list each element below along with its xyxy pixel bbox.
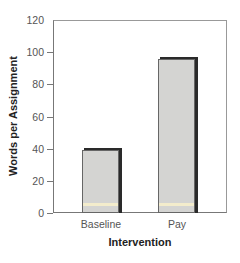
bar-highlight [159, 203, 194, 206]
bar-baseline [82, 150, 119, 213]
bar-pay [158, 59, 195, 213]
y-tick [47, 149, 53, 150]
y-tick [47, 84, 53, 85]
y-axis-title: Words per Assignment [7, 56, 19, 176]
y-tick [47, 181, 53, 182]
bar-highlight [83, 203, 118, 206]
y-tick [47, 117, 53, 118]
y-tick-label: 20 [14, 176, 44, 186]
x-tick-label: Baseline [71, 218, 131, 230]
plot-area [53, 20, 227, 213]
y-tick-label: 120 [14, 15, 44, 25]
x-axis-title: Intervention [53, 236, 227, 248]
x-tick-label: Pay [147, 218, 207, 230]
y-tick [47, 213, 53, 214]
y-tick-label: 0 [14, 208, 44, 218]
y-tick [47, 52, 53, 53]
